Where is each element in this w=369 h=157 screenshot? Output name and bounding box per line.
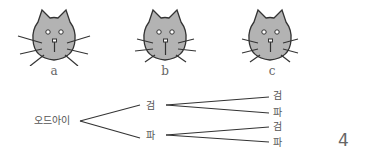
tree-root-label: 오드아이 bbox=[34, 115, 70, 127]
tree-node-level2-0-1: 파 bbox=[273, 107, 282, 119]
cat-face-icon-c bbox=[230, 8, 310, 66]
cat-face-icon-b bbox=[125, 8, 205, 66]
cat-label-b: b bbox=[155, 64, 175, 78]
tree-node-level2-1-1: 파 bbox=[273, 137, 282, 149]
cat-label-a: a bbox=[44, 64, 64, 78]
answer-number: 4 bbox=[338, 130, 349, 150]
tree-node-level1-0: 검 bbox=[146, 100, 155, 112]
tree-node-level1-1: 파 bbox=[146, 130, 155, 142]
cat-label-c: c bbox=[262, 64, 282, 78]
tree-node-level2-1-0: 검 bbox=[273, 121, 282, 133]
diagram: a b c 오드아이 검 파 검 bbox=[0, 0, 369, 157]
tree-node-level2-0-0: 검 bbox=[273, 90, 282, 102]
cat-face-icon-a bbox=[14, 8, 94, 66]
